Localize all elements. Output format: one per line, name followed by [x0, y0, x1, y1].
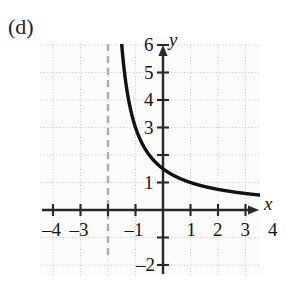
- y-axis-name: y: [169, 30, 177, 49]
- part-label: (d): [8, 14, 34, 40]
- x-tick-label-neg3: –3: [70, 220, 89, 239]
- y-tick-label-5: 5: [144, 63, 154, 82]
- y-tick-label-3: 3: [144, 118, 154, 137]
- y-tick-label-6: 6: [144, 35, 154, 54]
- x-tick-label-neg1: –1: [125, 220, 144, 239]
- x-tick-label-2: 2: [213, 220, 223, 239]
- figure-panel: (d) –4–3–1123413456–2xy: [0, 0, 300, 286]
- y-tick-label-1: 1: [144, 173, 154, 192]
- x-tick-label-1: 1: [187, 220, 197, 239]
- x-tick-label-neg4: –4: [42, 220, 61, 239]
- y-tick-label-4: 4: [144, 90, 154, 109]
- y-tick-label-neg2: –2: [136, 255, 155, 274]
- x-axis-name: x: [264, 194, 272, 213]
- x-tick-label-3: 3: [241, 220, 251, 239]
- x-tick-label-4: 4: [268, 220, 278, 239]
